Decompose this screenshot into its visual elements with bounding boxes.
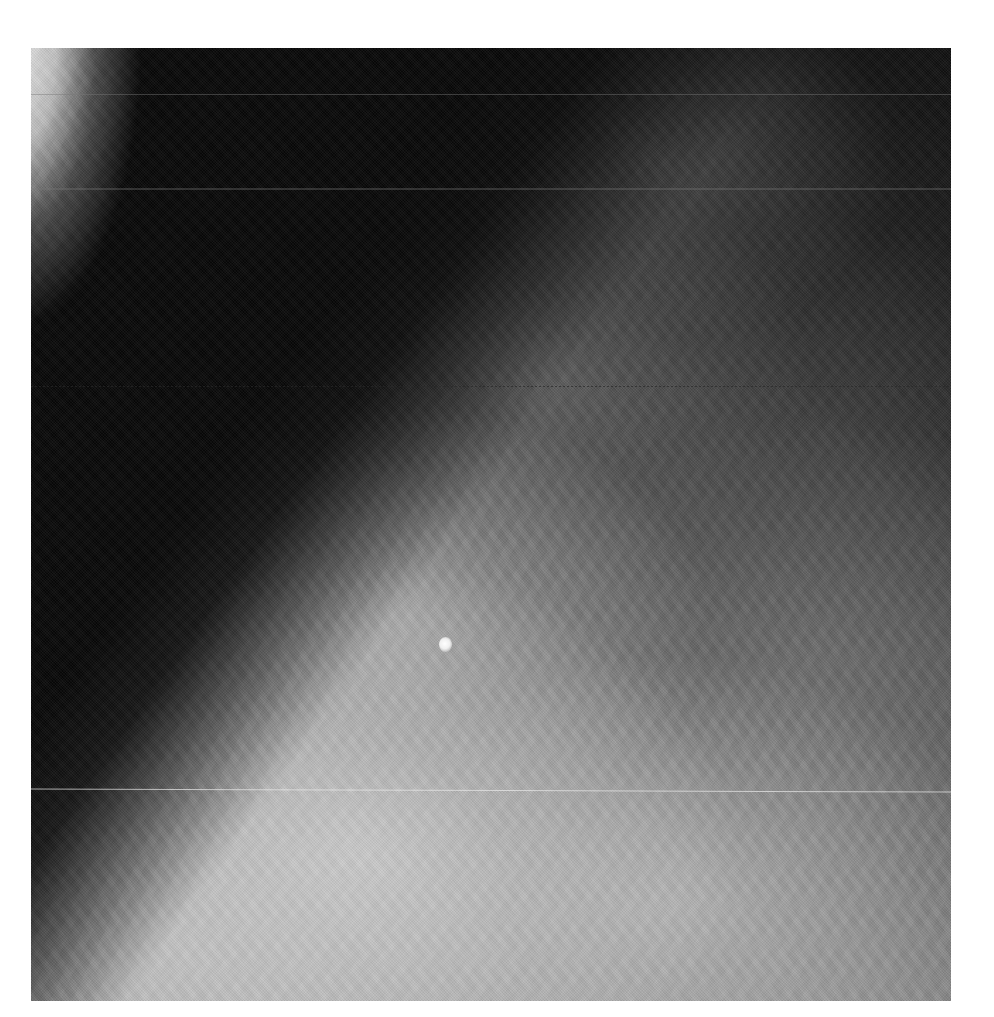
calcification-spot xyxy=(439,637,452,652)
film-grain xyxy=(31,48,951,1001)
scanner-artifact-line-dotted xyxy=(31,386,951,387)
mammogram-image xyxy=(31,48,951,1001)
scanner-artifact-line xyxy=(31,94,951,95)
scanner-artifact-line xyxy=(31,188,951,190)
